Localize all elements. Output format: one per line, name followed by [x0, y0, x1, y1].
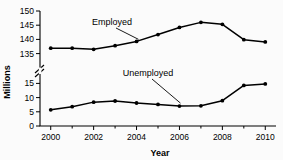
x-tick-labels: 200020022004200620082010: [41, 132, 275, 142]
data-point: [178, 104, 182, 108]
series-annotations: EmployedUnemployed: [92, 17, 180, 103]
data-point: [263, 82, 267, 86]
data-point: [199, 20, 203, 24]
data-point: [70, 105, 74, 109]
annotation-label: Unemployed: [123, 68, 174, 78]
x-tick-label: 2004: [127, 132, 146, 142]
data-series: [49, 20, 267, 111]
y-tick-label: 145: [20, 20, 34, 30]
x-tick-label: 2010: [256, 132, 275, 142]
data-point: [135, 101, 139, 105]
data-point: [113, 99, 117, 103]
data-point: [220, 99, 224, 103]
y-tick-label: 140: [20, 34, 34, 44]
data-point: [242, 38, 246, 42]
y-tick-label: 150: [20, 6, 34, 16]
y-tick-label: 5: [29, 107, 34, 117]
data-point: [92, 100, 96, 104]
x-tick-label: 2006: [170, 132, 189, 142]
data-point: [263, 40, 267, 44]
y-tick-label: 0: [29, 121, 34, 131]
data-point: [156, 33, 160, 37]
x-axis-title: Year: [150, 148, 170, 158]
data-point: [49, 108, 53, 112]
data-point: [220, 22, 224, 26]
y-tick-label: 135: [20, 49, 34, 59]
data-point: [49, 46, 53, 50]
y-axis-title: Millions: [2, 65, 12, 99]
y-tick-labels: 051015135140145150: [20, 6, 34, 131]
data-point: [242, 83, 246, 87]
data-point: [156, 103, 160, 107]
y-tick-label: 10: [25, 93, 35, 103]
data-point: [135, 39, 139, 43]
data-point: [199, 104, 203, 108]
data-point: [178, 26, 182, 30]
data-point: [92, 47, 96, 51]
data-point: [70, 46, 74, 50]
annotation-label: Employed: [92, 17, 132, 27]
data-point: [113, 44, 117, 48]
x-tick-label: 2000: [41, 132, 60, 142]
line-chart: Millions Year 051015135140145150 2000200…: [0, 0, 283, 160]
x-tick-label: 2002: [84, 132, 103, 142]
x-tick-label: 2008: [213, 132, 232, 142]
chart-container: Millions Year 051015135140145150 2000200…: [0, 0, 283, 160]
y-tick-label: 15: [25, 78, 35, 88]
